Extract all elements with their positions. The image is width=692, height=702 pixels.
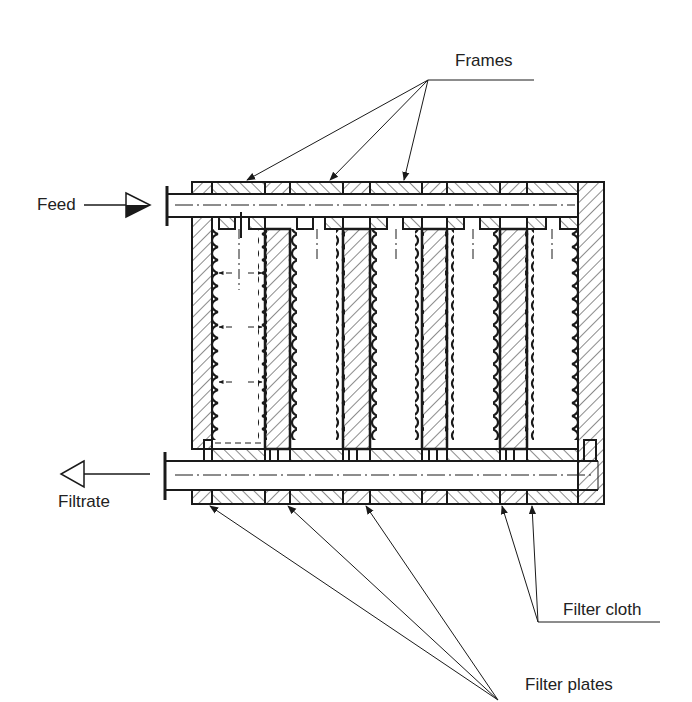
top-bar (192, 182, 578, 194)
feed-arrow (84, 193, 150, 217)
filter-cloth (493, 229, 502, 440)
filter-plates-label: Filter plates (525, 676, 613, 693)
filter-plates-leader (210, 506, 498, 700)
flow-arrows (215, 273, 262, 443)
frames-label: Frames (455, 52, 513, 69)
bottom-bar (192, 490, 578, 504)
filter-cloth (571, 229, 580, 440)
feed-label: Feed (37, 196, 76, 213)
frames-leader (247, 20, 534, 180)
filter-cloth (415, 229, 424, 440)
filter-cloth (258, 229, 267, 440)
filtrate-label: Filtrate (58, 493, 110, 510)
filter-cloth (288, 229, 297, 440)
end-plate-right (578, 182, 604, 504)
filtrate-arrow (61, 461, 150, 487)
diagram-canvas (0, 0, 692, 702)
filter-plate (265, 229, 290, 449)
filter-plate (422, 229, 447, 449)
filter-cloth (525, 229, 534, 440)
filtrate-arrow-icon (61, 461, 84, 487)
filter-cloth-label: Filter cloth (563, 601, 641, 618)
filter-plate (500, 229, 527, 449)
filter-cloth (336, 229, 345, 440)
feed-channel-wall (219, 217, 578, 229)
filter-cloth (212, 229, 219, 440)
filtrate-channel-wall (204, 440, 596, 461)
filter-cloth (445, 229, 454, 440)
filter-press-diagram: Frames Feed Filtrate Filter cloth Filter… (0, 0, 692, 702)
filter-plates (192, 217, 580, 449)
press-body (165, 182, 604, 504)
filter-cloth (368, 229, 377, 440)
end-plate-left (192, 217, 212, 449)
filter-plate (343, 229, 370, 449)
